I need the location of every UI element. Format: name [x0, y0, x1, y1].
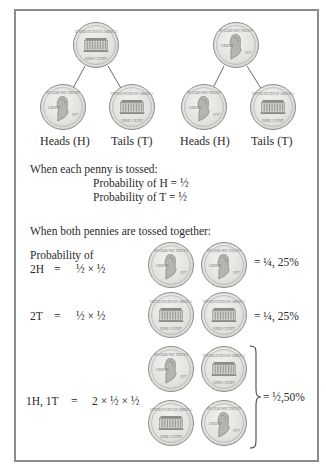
row-1h1t-result: = ½,50%	[263, 392, 305, 404]
curly-brace-icon	[248, 345, 262, 449]
penny-heads-icon	[201, 400, 247, 446]
penny-heads-icon	[213, 22, 259, 68]
penny-tails-icon	[201, 346, 247, 392]
penny-heads-icon	[201, 242, 247, 288]
double-toss-heading: When both pennies are tossed together:	[30, 226, 211, 238]
penny-heads-icon	[40, 84, 86, 130]
penny-tails-icon	[201, 292, 247, 338]
heads-label: Heads (H)	[180, 135, 230, 147]
penny-heads-icon	[181, 84, 227, 130]
tails-label: Tails (T)	[251, 135, 292, 147]
row-2t-label: 2T	[30, 311, 43, 323]
heads-label: Heads (H)	[40, 135, 90, 147]
probability-heads: Probability of H = ½	[93, 178, 189, 190]
penny-heads-icon	[148, 346, 194, 392]
single-toss-heading: When each penny is tossed:	[30, 164, 158, 176]
row-2h-expression: ½ × ½	[76, 264, 106, 276]
row-1h1t-label: 1H, 1T	[26, 396, 59, 408]
row-2h-result: = ¼, 25%	[254, 257, 299, 269]
tails-label: Tails (T)	[111, 135, 152, 147]
penny-tails-icon	[148, 292, 194, 338]
row-1h1t-expression: 2 × ½ × ½	[92, 396, 139, 408]
penny-heads-icon	[148, 242, 194, 288]
row-2h-label: 2H	[30, 264, 44, 276]
equals-sign: =	[71, 396, 78, 408]
row-2t-expression: ½ × ½	[76, 311, 106, 323]
penny-tails-icon	[109, 84, 155, 130]
equals-sign: =	[54, 311, 61, 323]
penny-tails-icon	[148, 400, 194, 446]
equals-sign: =	[54, 264, 61, 276]
penny-tails-icon	[73, 22, 119, 68]
penny-tails-icon	[250, 84, 296, 130]
probability-tails: Probability of T = ½	[93, 192, 187, 204]
probability-of-label: Probability of	[30, 250, 94, 262]
row-2t-result: = ¼, 25%	[254, 311, 299, 323]
